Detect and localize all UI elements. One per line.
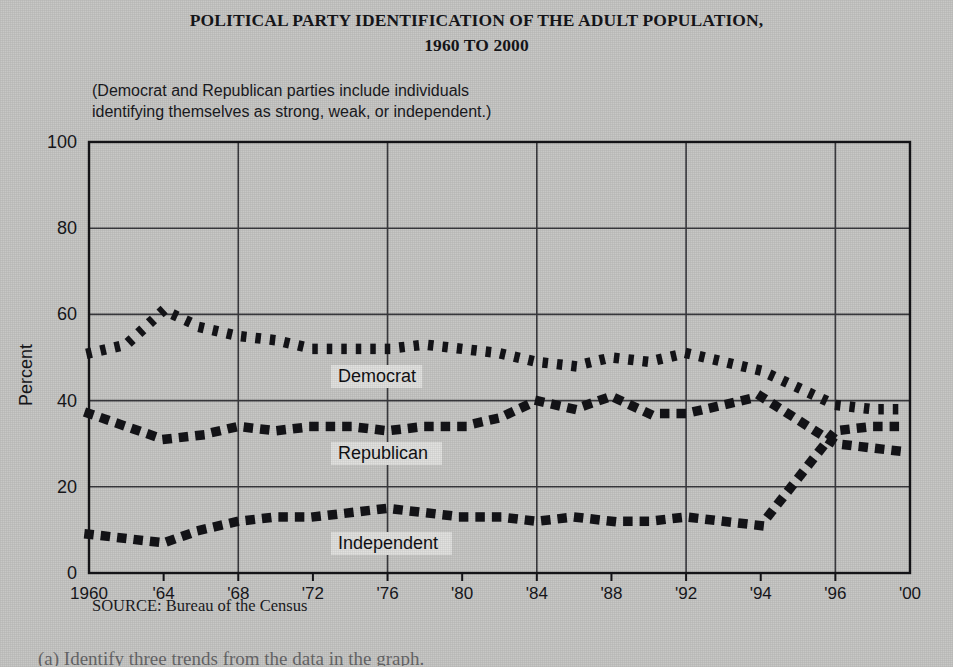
series-mark — [99, 413, 111, 425]
series-mark — [358, 423, 369, 434]
chart-plot-area: 020406080100 1960'64'68'72'76'80'84'88'9… — [0, 0, 953, 667]
series-mark — [342, 422, 352, 432]
series-mark — [197, 322, 205, 333]
series-mark — [309, 422, 319, 432]
series-mark — [259, 424, 270, 435]
y-tick-label: 80 — [57, 218, 77, 238]
series-mark — [341, 344, 347, 355]
series-mark — [784, 481, 797, 494]
series-mark — [573, 512, 584, 523]
series-mark — [178, 432, 189, 443]
series-mark — [426, 508, 437, 519]
x-tick-label: '94 — [750, 584, 772, 603]
y-tick-label: 20 — [57, 477, 77, 497]
series-mark — [459, 512, 469, 522]
series-mark — [326, 422, 336, 432]
series-mark — [684, 348, 692, 359]
series-mark — [606, 516, 617, 527]
series-mark — [370, 344, 376, 355]
series-mark — [374, 425, 385, 436]
x-tick-label: '88 — [600, 584, 622, 603]
series-mark — [297, 340, 305, 351]
series-mark — [508, 513, 519, 524]
series-mark — [442, 341, 449, 352]
series-mark — [814, 442, 827, 455]
series-mark — [327, 509, 338, 520]
series-mark — [793, 382, 802, 394]
series-mark — [712, 354, 720, 365]
series-mark — [856, 422, 867, 433]
y-tick-label: 60 — [57, 304, 77, 324]
series-mark — [767, 370, 776, 382]
series-mark — [794, 468, 807, 481]
series-mark — [692, 405, 703, 416]
series-mark — [755, 390, 768, 403]
x-tick-label: '00 — [899, 584, 921, 603]
line-chart-svg: 020406080100 1960'64'68'72'76'80'84'88'9… — [0, 0, 953, 667]
x-tick-label: '96 — [824, 584, 846, 603]
series-mark — [212, 520, 223, 531]
series-mark — [149, 537, 160, 548]
series-mark — [183, 315, 192, 327]
x-tick-label: '84 — [526, 584, 548, 603]
series-mark — [797, 417, 810, 430]
series-mark — [740, 361, 748, 372]
series-annotations: DemocratRepublicanIndependent — [331, 365, 452, 555]
series-mark — [721, 516, 732, 527]
question-prompt-text: (a) Identify three trends from the data … — [38, 648, 938, 667]
series-mark — [488, 413, 499, 424]
series-mark — [518, 400, 531, 413]
series-mark — [642, 356, 649, 367]
series-mark — [211, 325, 219, 336]
series-mark — [442, 510, 453, 521]
series-mark — [557, 513, 568, 524]
series-mark — [391, 425, 402, 436]
series-mark — [873, 422, 883, 432]
series-mark — [146, 316, 157, 327]
series-mark — [640, 517, 650, 527]
series-mark — [628, 354, 635, 365]
series-mark — [125, 335, 136, 346]
series-mark — [513, 351, 521, 362]
series-mark — [893, 404, 899, 415]
series-mark — [276, 425, 287, 436]
series-mark — [226, 422, 237, 433]
series-mark — [344, 508, 355, 519]
series-mark — [783, 408, 796, 421]
series-mark — [226, 328, 234, 339]
series-mark — [804, 455, 817, 468]
series-mark — [170, 309, 179, 321]
series-mark — [278, 512, 288, 522]
series-mark — [705, 514, 716, 525]
series-mark — [255, 333, 262, 344]
series-mark — [456, 343, 463, 354]
series-mark — [863, 403, 870, 414]
series-mark — [283, 337, 291, 348]
series-mark — [534, 396, 545, 407]
series-mark — [485, 346, 492, 357]
series-mark — [890, 422, 900, 432]
series-democrat — [85, 306, 898, 415]
series-mark — [292, 423, 303, 434]
series-mark — [196, 524, 207, 535]
series-mark — [130, 424, 142, 436]
series-mark — [672, 513, 683, 524]
series-mark — [503, 407, 516, 420]
series-mark — [891, 445, 902, 456]
series-mark — [499, 348, 507, 359]
series-mark — [157, 306, 168, 317]
y-tick-label: 40 — [57, 391, 77, 411]
series-mark — [556, 359, 563, 370]
series-mark — [240, 331, 247, 342]
series-mark — [295, 512, 305, 522]
series-mark — [210, 426, 221, 437]
y-axis-tick-labels: 020406080100 — [47, 132, 77, 583]
series-mark — [807, 388, 816, 400]
series-mark — [376, 504, 387, 515]
series-mark — [195, 430, 206, 441]
series-mark — [475, 512, 485, 522]
series-mark — [492, 512, 502, 522]
series-mark — [360, 506, 371, 517]
series-mark — [737, 518, 748, 529]
series-label-independent: Independent — [338, 533, 438, 553]
